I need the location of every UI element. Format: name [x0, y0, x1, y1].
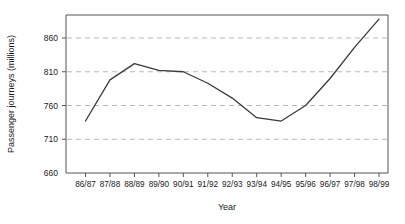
x-axis-tick-label: 96/97 — [320, 180, 341, 189]
x-axis-tick-label: 88/89 — [124, 180, 145, 189]
x-axis-tick-label: 91/92 — [198, 180, 219, 189]
x-axis-tick-label: 89/90 — [149, 180, 170, 189]
x-axis-tick-label: 92/93 — [222, 180, 243, 189]
x-axis-tick-label: 97/98 — [344, 180, 365, 189]
x-axis-tick-label: 94/95 — [271, 180, 292, 189]
chart-container: 660710760810860 86/8787/8888/8989/9090/9… — [0, 0, 405, 224]
x-axis-title: Year — [218, 202, 236, 212]
y-axis-tick-label: 810 — [44, 67, 58, 77]
y-axis-tick-label: 760 — [44, 101, 58, 111]
x-axis-tick-label: 86/87 — [75, 180, 96, 189]
y-axis-title: Passenger journeys (millions) — [6, 35, 16, 153]
y-axis-tick-label: 860 — [44, 33, 58, 43]
x-axis-tick-label: 93/94 — [246, 180, 267, 189]
x-axis-tick-label: 95/96 — [295, 180, 316, 189]
x-axis-tick-label: 87/88 — [100, 180, 121, 189]
x-axis-tick-label: 98/99 — [369, 180, 390, 189]
y-axis-tick-label: 710 — [44, 134, 58, 144]
x-axis-tick-label: 90/91 — [173, 180, 194, 189]
line-chart: 660710760810860 86/8787/8888/8989/9090/9… — [0, 0, 405, 224]
y-axis-tick-label: 660 — [44, 168, 58, 178]
chart-background — [0, 0, 405, 224]
